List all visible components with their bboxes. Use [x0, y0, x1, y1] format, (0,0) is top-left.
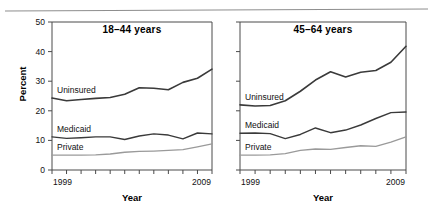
- y-tick-label: 10: [36, 135, 46, 145]
- series-line-medicaid: [52, 133, 212, 140]
- series-label-uninsured: Uninsured: [245, 92, 284, 102]
- series-label-uninsured: Uninsured: [57, 85, 96, 95]
- y-tick-label: 30: [36, 76, 46, 86]
- series-label-medicaid: Medicaid: [245, 120, 279, 130]
- panel-18-44: 010203040501999200918–44 yearsUninsuredM…: [36, 17, 212, 203]
- x-tick-label-start: 1999: [241, 177, 260, 187]
- y-tick-label: 50: [36, 17, 46, 27]
- y-tick-label: 20: [36, 106, 46, 116]
- series-label-private: Private: [245, 142, 272, 152]
- chart-svg: 010203040501999200918–44 yearsUninsuredM…: [0, 0, 433, 217]
- y-tick-label: 40: [36, 47, 46, 57]
- series-label-medicaid: Medicaid: [57, 124, 91, 134]
- panel-45-64: 1999200945–64 yearsUninsuredMedicaidPriv…: [236, 22, 406, 203]
- panel-title: 45–64 years: [294, 24, 353, 35]
- x-tick-label-end: 2009: [192, 177, 211, 187]
- top-divider-rule: [5, 9, 428, 11]
- x-axis-title: Year: [122, 192, 142, 203]
- plot-root: 010203040501999200918–44 yearsUninsuredM…: [17, 17, 406, 203]
- chart-figure: 010203040501999200918–44 yearsUninsuredM…: [0, 0, 433, 217]
- panel-title: 18–44 years: [103, 24, 162, 35]
- x-tick-label-end: 2009: [386, 177, 405, 187]
- y-tick-label: 0: [40, 165, 45, 175]
- y-axis-title: Percent: [17, 66, 28, 102]
- x-tick-label-start: 1999: [53, 177, 72, 187]
- series-label-private: Private: [57, 142, 84, 152]
- x-axis-title: Year: [313, 192, 333, 203]
